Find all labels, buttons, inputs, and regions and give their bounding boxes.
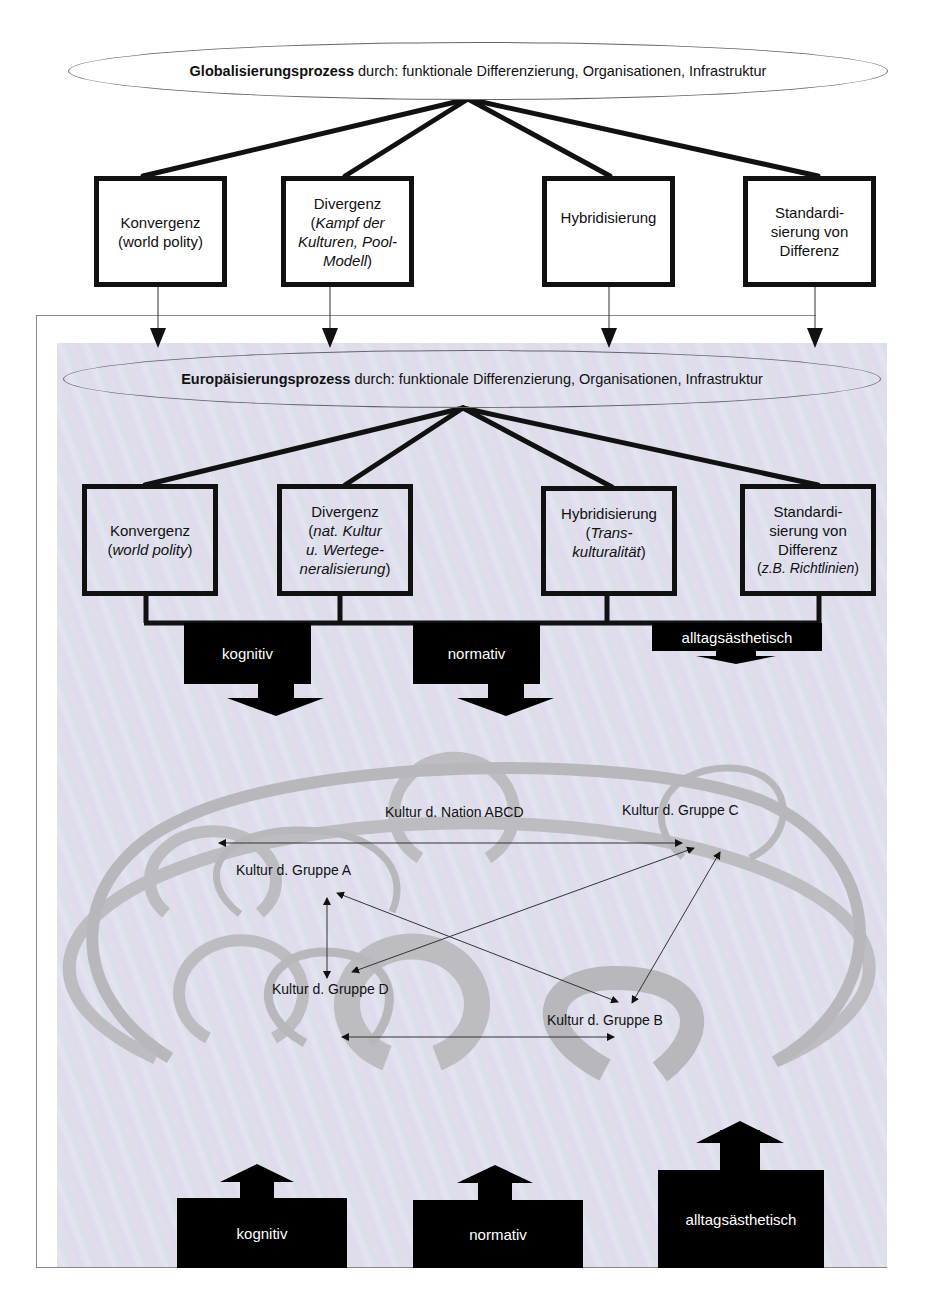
down-arrow-label: alltagsästhetisch: [682, 629, 793, 646]
box-title: Divergenz: [311, 502, 379, 521]
label-gruppe-b: Kultur d. Gruppe B: [547, 1012, 663, 1028]
up-arrow-alltagsaesthetisch: alltagsästhetisch: [658, 1170, 824, 1268]
box-title-line2: sierung von: [771, 222, 849, 241]
box-subtitle-italic: Kampf der Kulturen, Pool-Modell: [298, 214, 397, 269]
box-title: Hybridisierung: [561, 504, 657, 523]
box-subtitle: (Kampf der Kulturen, Pool-Modell): [298, 213, 398, 270]
label-gruppe-a: Kultur d. Gruppe A: [236, 862, 351, 878]
label-nation-abcd: Kultur d. Nation ABCD: [385, 804, 524, 820]
global-box-konvergenz: Konvergenz (world polity): [94, 176, 227, 287]
up-arrow-label: kognitiv: [237, 1225, 288, 1242]
down-arrow-alltagsaesthetisch: alltagsästhetisch: [652, 623, 822, 651]
up-arrow-normativ: normativ: [413, 1200, 583, 1268]
global-box-divergenz: Divergenz (Kampf der Kulturen, Pool-Mode…: [281, 176, 414, 287]
box-subtitle-italic: kulturalität: [572, 543, 640, 560]
box-title-line2: sierung von: [769, 521, 847, 540]
down-arrow-label: kognitiv: [222, 645, 273, 662]
box-title-line3: Differenz: [780, 241, 840, 260]
euro-process-title: Europäisierungsprozess: [181, 371, 350, 387]
box-subtitle-line1: (nat. Kultur: [308, 521, 381, 540]
box-subtitle-italic: z.B. Richtlinien: [762, 560, 855, 576]
label-gruppe-c: Kultur d. Gruppe C: [622, 802, 739, 818]
box-title: Divergenz: [314, 194, 382, 213]
box-subtitle: (z.B. Richtlinien): [757, 559, 859, 578]
global-process-title: Globalisierungsprozess: [190, 63, 354, 79]
down-arrow-label: normativ: [448, 645, 506, 662]
euro-process-detail: durch: funktionale Differenzierung, Orga…: [350, 371, 762, 387]
global-box-standardisierung: Standardi- sierung von Differenz: [743, 176, 876, 287]
label-gruppe-d: Kultur d. Gruppe D: [272, 981, 389, 997]
box-title-line1: Standardi-: [773, 502, 842, 521]
box-subtitle: (world polity): [118, 232, 203, 251]
box-subtitle-italic: world polity: [112, 541, 187, 558]
up-arrow-kognitiv: kognitiv: [177, 1198, 347, 1268]
global-process-ellipse: Globalisierungsprozess durch: funktional…: [68, 42, 888, 100]
up-arrow-label: normativ: [469, 1226, 527, 1243]
box-subtitle-italic: nat. Kultur: [313, 522, 381, 539]
global-box-hybridisierung: Hybridisierung: [542, 176, 675, 287]
relation-d-c: [352, 848, 694, 972]
up-arrow-label: alltagsästhetisch: [686, 1211, 797, 1228]
box-subtitle: (world polity): [107, 540, 192, 559]
box-title-line3: Differenz: [778, 540, 838, 559]
euro-box-konvergenz: Konvergenz (world polity): [82, 484, 218, 596]
down-arrow-normativ: normativ: [413, 623, 540, 684]
box-title: Hybridisierung: [561, 208, 657, 227]
box-subtitle-italic: Trans-: [590, 524, 632, 541]
down-arrow-kognitiv: kognitiv: [184, 623, 311, 684]
box-title: Konvergenz: [110, 521, 190, 540]
box-subtitle-line2: kulturalität): [572, 542, 645, 561]
box-title-line1: Standardi-: [775, 203, 844, 222]
box-subtitle-italic: neralisierung: [300, 560, 386, 577]
euro-box-divergenz: Divergenz (nat. Kultur u. Wertege- neral…: [277, 484, 413, 596]
euro-box-standardisierung: Standardi- sierung von Differenz (z.B. R…: [740, 484, 876, 596]
euro-box-hybridisierung: Hybridisierung (Trans- kulturalität): [541, 486, 677, 596]
box-subtitle-line1: (Trans-: [585, 523, 632, 542]
global-process-detail: durch: funktionale Differenzierung, Orga…: [354, 63, 766, 79]
box-subtitle-line2: u. Wertege-: [306, 540, 384, 559]
euro-process-ellipse: Europäisierungsprozess durch: funktional…: [63, 350, 881, 408]
box-title: Konvergenz: [120, 213, 200, 232]
box-subtitle-line3: neralisierung): [300, 559, 391, 578]
